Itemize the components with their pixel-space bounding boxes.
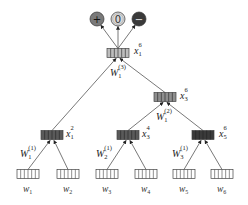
leaf-vector-w2 [57,170,79,179]
leaf-label-w2: w2 [63,184,72,195]
node-x3-4 [117,131,139,140]
edge-x1_2-to-x1_6 [52,59,116,131]
output-class-neu: 0 [111,12,125,26]
edge-w2-to-x1_2 [54,141,68,170]
leaf-vector-w4 [135,170,157,179]
tree-diagram: +0− x61 W(3)1 x63 W(2)1 x21 W(1)1 x43 W(… [0,0,248,205]
edge-x3_6-to-x1_6 [120,59,165,93]
leaf-vector-w1 [17,170,39,179]
edge-root-to-pos [101,25,118,48]
weight-label-w1-3: W(3)1 [110,68,118,78]
node-x5-6 [192,131,214,140]
nodes-layer: +0− [17,12,233,179]
weight-label-w2-1: W(1)2 [96,149,104,159]
leaf-vector-w6 [211,170,233,179]
output-symbol-neg: − [135,14,143,25]
leaf-label-w5: w5 [179,184,188,195]
output-class-neg: − [132,12,146,26]
leaf-label-w3: w3 [102,184,111,195]
output-class-pos: + [90,12,104,26]
edges-layer [28,25,222,169]
edge-w6-to-x5_6 [205,141,222,170]
node-x3-6 [154,93,176,102]
leaf-label-w6: w6 [217,184,226,195]
weight-label-w1-1: W(1)1 [20,149,28,159]
leaf-label-w4: w4 [141,184,150,195]
weight-label-w3-1: W(1)3 [172,149,180,159]
output-symbol-pos: + [93,14,101,25]
leaf-vector-w5 [173,170,195,179]
edge-x5_6-to-x3_6 [167,103,203,131]
output-symbol-neu: 0 [115,14,121,25]
node-x1-2 [41,131,63,140]
edge-w4-to-x3_4 [130,141,146,170]
node-label-x1-2: x21 [66,129,70,139]
diagram-canvas: +0− [0,0,248,205]
node-label-x3-4: x43 [142,129,146,139]
leaf-vector-w3 [96,170,118,179]
node-label-x3-6: x63 [180,91,184,101]
weight-label-w1-2: W(2)1 [156,112,164,122]
leaf-label-w1: w1 [23,184,32,195]
node-x1-6 [107,49,129,58]
edge-root-to-neg [118,25,135,48]
node-label-x1-6: x61 [134,46,138,56]
node-label-x5-6: x65 [219,129,223,139]
